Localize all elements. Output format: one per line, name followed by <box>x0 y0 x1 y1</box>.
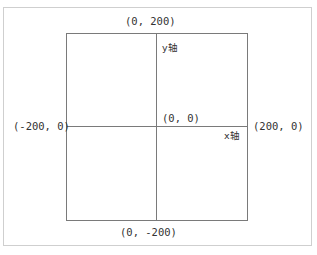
origin-label: (0, 0) <box>162 112 200 124</box>
coordinate-plane-box <box>66 33 248 221</box>
clipped-header-text <box>0 0 317 3</box>
x-axis-line <box>66 126 248 127</box>
top-point-label: (0, 200) <box>125 15 176 27</box>
y-axis-line <box>156 33 157 221</box>
y-axis-label: y轴 <box>162 42 178 54</box>
right-point-label: (200, 0) <box>253 120 304 132</box>
bottom-point-label: (0, -200) <box>120 226 177 238</box>
x-axis-label: x轴 <box>224 130 240 142</box>
left-point-label: (-200, 0) <box>13 120 70 132</box>
